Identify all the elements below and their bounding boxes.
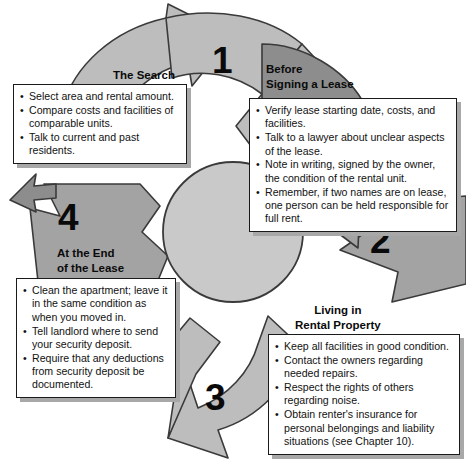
callout-list-stage-2: Verify lease starting date, costs, and f… xyxy=(256,104,449,226)
callout-list-item: Obtain renter's insurance for personal b… xyxy=(275,408,452,448)
stage-number-4: 4 xyxy=(58,199,78,236)
callout-list-item: Contact the owners regarding needed repa… xyxy=(275,354,452,381)
callout-list-item: Select area and rental amount. xyxy=(20,90,179,103)
callout-list-item: Clean the apartment; leave it in the sam… xyxy=(23,284,168,324)
stage-heading-at-the-end-of-the-lease: At the End of the Lease xyxy=(57,246,124,275)
stage-number-1: 1 xyxy=(212,42,232,79)
callout-list-item: Talk to current and past residents. xyxy=(20,131,179,158)
stage-heading-living-in-rental-property: Living in Rental Property xyxy=(295,303,381,332)
stage-heading-before-signing-a-lease: Before Signing a Lease xyxy=(266,62,354,91)
callout-list-stage-3: Keep all facilities in good condition.Co… xyxy=(275,340,452,448)
callout-list-item: Keep all facilities in good condition. xyxy=(275,340,452,353)
arrow-stage-4-tip xyxy=(10,174,56,212)
callout-stage-4: Clean the apartment; leave it in the sam… xyxy=(16,278,176,398)
stage-heading-the-search: The Search xyxy=(113,68,175,83)
callout-list-item: Compare costs and facilities of comparab… xyxy=(20,104,179,131)
callout-stage-2: Verify lease starting date, costs, and f… xyxy=(249,98,457,232)
callout-list-item: Respect the rights of others regarding n… xyxy=(275,381,452,408)
rental-process-diagram: 1 2 3 4 The Search Before Signing a Leas… xyxy=(0,0,466,465)
callout-list-item: Talk to a lawyer about unclear aspects o… xyxy=(256,131,449,158)
callout-list-item: Require that any deductions from securit… xyxy=(23,352,168,392)
stage-number-3: 3 xyxy=(205,379,225,416)
callout-list-stage-1: Select area and rental amount.Compare co… xyxy=(20,90,179,158)
callout-stage-3: Keep all facilities in good condition.Co… xyxy=(268,334,460,455)
callout-list-item: Note in writing, signed by the owner, th… xyxy=(256,158,449,185)
callout-stage-1: Select area and rental amount.Compare co… xyxy=(13,84,187,164)
callout-list-item: Tell landlord where to send your securit… xyxy=(23,325,168,352)
callout-list-item: Remember, if two names are on lease, one… xyxy=(256,186,449,226)
callout-list-stage-4: Clean the apartment; leave it in the sam… xyxy=(23,284,168,392)
callout-list-item: Verify lease starting date, costs, and f… xyxy=(256,104,449,131)
